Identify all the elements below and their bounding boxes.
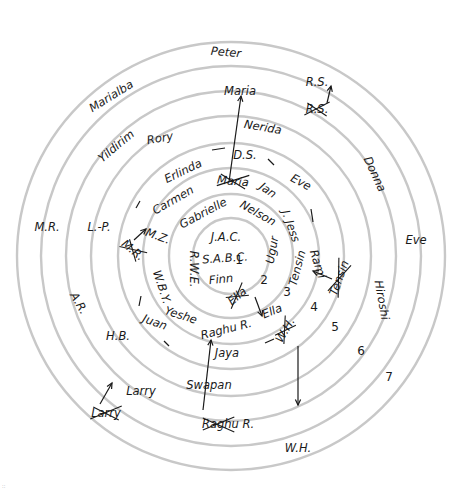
svg-text:J.A.C.: J.A.C.	[209, 230, 241, 244]
separator-dash	[139, 296, 141, 306]
name-larry-crossed: Larry	[90, 406, 122, 420]
ring-number-3: 3	[283, 285, 291, 299]
name-hb: H.B.	[106, 329, 130, 343]
svg-text:M.R.: M.R.	[34, 220, 59, 234]
svg-text:Raghu R.: Raghu R.	[199, 316, 253, 342]
svg-text:Finn: Finn	[208, 271, 234, 287]
svg-text:R.W.E.: R.W.E.	[187, 251, 201, 288]
name-wh-crossed: W.H.	[272, 315, 297, 345]
svg-text:Larry: Larry	[126, 384, 156, 398]
arrow-raghu-up	[203, 340, 213, 410]
svg-text:Tensin: Tensin	[286, 249, 309, 288]
ring-number-2: 2	[260, 273, 268, 287]
name-rwe: R.W.E.	[187, 251, 201, 288]
ring-number-7: 7	[385, 370, 393, 384]
ring-number-4: 4	[310, 300, 318, 314]
name-rory: Rory	[146, 129, 175, 147]
name-donna: Donna	[361, 154, 390, 194]
svg-text:Peter: Peter	[210, 44, 243, 61]
corner-mark: ::	[2, 483, 5, 489]
name-finn: Finn	[208, 271, 234, 287]
name-rami: Rami	[307, 248, 330, 281]
svg-text:D.S.: D.S.	[233, 148, 256, 162]
svg-text:J. Jess: J. Jess	[278, 206, 303, 244]
svg-text:Ella: Ella	[260, 301, 284, 322]
ring-number-1: 1	[235, 253, 243, 267]
svg-text:Nelson: Nelson	[238, 197, 279, 229]
name-nelson: Nelson	[238, 197, 279, 229]
separator-dash	[136, 201, 140, 208]
svg-text:Eve: Eve	[405, 233, 426, 247]
name-lp: L.-P.	[87, 220, 110, 234]
svg-text:Rami: Rami	[307, 248, 330, 281]
name-hiroshi: Hiroshi	[372, 279, 393, 322]
separator-dash	[164, 341, 169, 346]
svg-text:H.B.: H.B.	[106, 329, 130, 343]
name-mr: M.R.	[34, 220, 59, 234]
svg-text:Nerida: Nerida	[243, 117, 283, 137]
name-raghu-r: Raghu R.	[199, 316, 253, 342]
svg-text:Donna: Donna	[361, 154, 390, 194]
svg-text:Swapan: Swapan	[186, 378, 231, 392]
relationship-circles-diagram: J.A.C.S.A.B.C.FinnGabrielleNelsonUgurR.W…	[0, 0, 464, 493]
name-mz: M.Z.	[144, 225, 172, 247]
name-jac: J.A.C.	[209, 230, 241, 244]
name-tensin-inner: Tensin	[286, 249, 309, 288]
name-jaya: Jaya	[213, 346, 239, 360]
name-ella: Ella	[260, 301, 284, 322]
svg-text:R.S.: R.S.	[306, 75, 329, 89]
name-maria-crossed: Maria	[216, 173, 249, 190]
name-rs-crossed: R.S.	[304, 102, 329, 116]
separator-dash	[265, 339, 274, 343]
person-labels: J.A.C.S.A.B.C.FinnGabrielleNelsonUgurR.W…	[34, 44, 426, 455]
svg-text:W.H.: W.H.	[285, 441, 311, 455]
svg-text:Rory: Rory	[146, 129, 175, 147]
arrow-wh-down	[295, 346, 300, 405]
name-eve-outer: Eve	[405, 233, 426, 247]
svg-text:Hiroshi: Hiroshi	[372, 279, 393, 322]
separator-dash	[212, 148, 225, 150]
svg-text:Jaya: Jaya	[213, 346, 239, 360]
svg-text:L.-P.: L.-P.	[87, 220, 110, 234]
ring-number-6: 6	[357, 344, 365, 358]
name-maria-outer: Maria	[224, 84, 256, 98]
separator-dash	[268, 159, 274, 165]
name-peter: Peter	[210, 44, 243, 61]
name-swapan: Swapan	[186, 378, 231, 392]
name-wh: W.H.	[285, 441, 311, 455]
name-raghu-crossed: Raghu R.	[202, 417, 254, 432]
name-nerida: Nerida	[243, 117, 283, 137]
name-ds: D.S.	[233, 148, 256, 162]
svg-text:M.Z.: M.Z.	[144, 225, 172, 247]
arrow-larry-up	[100, 383, 112, 404]
name-jess: J. Jess	[278, 206, 303, 244]
name-ella-crossed: Ella	[223, 283, 251, 310]
ring-number-5: 5	[331, 320, 339, 334]
name-larry: Larry	[126, 384, 156, 398]
svg-text:Maria: Maria	[224, 84, 256, 98]
name-rs: R.S.	[306, 75, 329, 89]
